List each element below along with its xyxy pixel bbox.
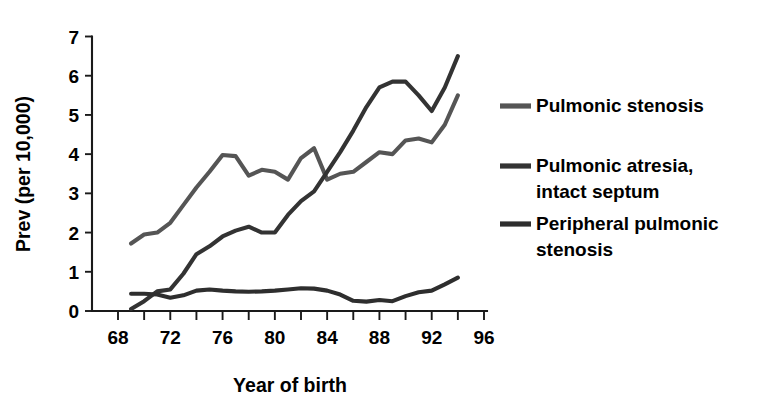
y-tick-label: 0: [68, 301, 79, 322]
y-tick-label: 4: [68, 144, 79, 165]
legend-label-2-line2: stenosis: [536, 239, 613, 260]
x-tick-label: 84: [317, 327, 339, 348]
x-axis-ticks: 6872768084889296: [107, 311, 494, 348]
legend-label-1-line2: intact septum: [536, 181, 660, 202]
y-tick-label: 5: [68, 105, 79, 126]
y-axis-ticks: 01234567: [68, 27, 92, 323]
x-tick-label: 96: [473, 327, 494, 348]
legend-label-2: Peripheral pulmonic: [536, 213, 719, 234]
legend-label-0: Pulmonic stenosis: [536, 95, 704, 116]
x-axis-title: Year of birth: [233, 374, 347, 396]
line-chart: 01234567 6872768084889296 Prev (per 10,0…: [0, 0, 763, 408]
x-tick-label: 92: [421, 327, 442, 348]
y-tick-label: 2: [68, 223, 79, 244]
series-line-2: [131, 278, 458, 302]
x-tick-label: 72: [160, 327, 181, 348]
series-lines: [131, 56, 458, 309]
chart-legend: Pulmonic stenosisPulmonic atresia,intact…: [500, 95, 719, 260]
x-tick-label: 68: [107, 327, 128, 348]
x-tick-label: 88: [369, 327, 390, 348]
series-line-1: [131, 56, 458, 309]
chart-figure: 01234567 6872768084889296 Prev (per 10,0…: [0, 0, 763, 408]
legend-label-1: Pulmonic atresia,: [536, 155, 693, 176]
y-axis-title: Prev (per 10,000): [12, 96, 34, 252]
x-tick-label: 80: [264, 327, 285, 348]
series-line-0: [131, 95, 458, 243]
y-tick-label: 3: [68, 183, 79, 204]
x-tick-label: 76: [212, 327, 233, 348]
y-tick-label: 1: [68, 262, 79, 283]
y-tick-label: 6: [68, 66, 79, 87]
y-tick-label: 7: [68, 27, 79, 48]
